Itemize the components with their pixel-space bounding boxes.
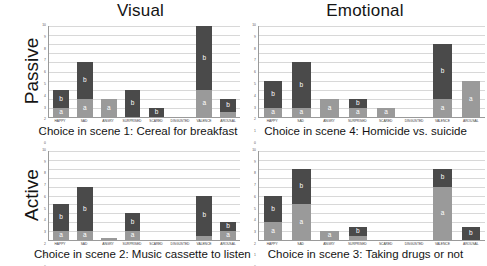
y-tick-label: 8 <box>254 48 256 51</box>
y-tick-label: 6 <box>254 71 256 74</box>
y-tick-label: 4 <box>254 219 256 222</box>
bar-segment-b: b <box>264 81 283 108</box>
y-tick-label: 5 <box>254 208 256 211</box>
bar-segment-b: b <box>264 196 283 223</box>
bar-segment-a <box>196 236 212 240</box>
plot-area: babababba <box>48 151 240 241</box>
bar-segment-a: a <box>349 108 368 117</box>
stacked-bar: ba <box>53 204 69 240</box>
bar-segment-a: a <box>320 99 339 117</box>
bar-slot: ba <box>49 151 73 240</box>
stacked-bar: ba <box>433 44 452 117</box>
stacked-bar: a <box>320 99 339 117</box>
stacked-bar: ba <box>264 196 283 241</box>
bar-segment-a <box>101 238 117 240</box>
y-tick-label: 2 <box>44 119 46 122</box>
bar-slot <box>168 151 192 240</box>
y-tick-label: 9 <box>254 161 256 164</box>
bar-slot: a <box>372 26 400 117</box>
y-tick-label: 0 <box>254 142 256 145</box>
bar-segment-a: a <box>196 90 212 117</box>
stacked-bar: ba <box>77 62 93 117</box>
plot-area: babaabbbab <box>48 26 240 118</box>
bar-slot: a <box>97 26 121 117</box>
bar-slot: ba <box>429 26 457 117</box>
bar-segment-b: b <box>220 222 236 231</box>
y-tick-label: 5 <box>254 83 256 86</box>
stacked-bar: a <box>320 231 339 240</box>
y-tick-label: 8 <box>44 48 46 51</box>
plot-area: babaabbab <box>258 151 485 241</box>
stacked-bar: ba <box>196 26 212 117</box>
stacked-bar: b <box>125 90 141 117</box>
stacked-bar: a <box>462 81 481 117</box>
bar-segment-b: b <box>462 227 481 240</box>
plot-area: babaabaabaa <box>258 26 485 118</box>
bar-segment-b: b <box>125 213 141 231</box>
bar-slot: b <box>145 26 169 117</box>
stacked-bar: ba <box>125 213 141 240</box>
y-tick-label: 4 <box>44 95 46 98</box>
stacked-bar: b <box>149 108 165 117</box>
y-tick-label: 7 <box>254 184 256 187</box>
bars-container: babaabbab <box>259 151 485 240</box>
bar-slot: ba <box>121 151 145 240</box>
y-tick-label: 7 <box>254 60 256 63</box>
y-tick-label: 5 <box>44 208 46 211</box>
bar-segment-a: a <box>433 99 452 117</box>
bar-segment-a: a <box>101 99 117 117</box>
panel-caption: Choice in scene 3: Taking drugs or not <box>244 248 487 260</box>
bar-slot <box>168 26 192 117</box>
bar-segment-a: a <box>264 222 283 240</box>
stacked-bar: ba <box>77 187 93 240</box>
bar-slot: ba <box>287 151 315 240</box>
bar-segment-b: b <box>77 187 93 232</box>
bar-segment-a: a <box>320 231 339 240</box>
chart-panel-top-right: babaabaabaa 012345678910 HAPPYSADANGRYSU… <box>244 24 487 142</box>
figure-stacked-bar-grid: Visual Emotional Passive Active babaabbb… <box>0 0 487 266</box>
bar-segment-a: a <box>125 231 141 240</box>
bar-slot: ba <box>216 151 240 240</box>
panel-caption: Choice in scene 4: Homicide vs. suicide <box>244 125 487 137</box>
y-tick-label: 0 <box>44 142 46 145</box>
y-tick-label: 10 <box>42 149 46 152</box>
y-tick-label: 10 <box>252 149 256 152</box>
bar-slot: b <box>121 26 145 117</box>
bar-slot: ba <box>259 151 287 240</box>
bar-slot <box>400 26 428 117</box>
bar-slot <box>372 151 400 240</box>
column-title-emotional: Emotional <box>243 1 487 21</box>
bar-segment-a: a <box>377 108 396 117</box>
bars-container: babaabaabaa <box>259 26 485 117</box>
y-tick-label: 3 <box>44 231 46 234</box>
bar-slot: b <box>457 151 485 240</box>
bar-segment-b: b <box>196 196 212 236</box>
y-tick-label: 4 <box>254 95 256 98</box>
bar-slot: b <box>216 26 240 117</box>
bar-segment-b: b <box>196 26 212 90</box>
bar-segment-b: b <box>292 169 311 205</box>
bar-segment-b: b <box>292 62 311 108</box>
bar-segment-a: a <box>292 108 311 117</box>
y-tick-label: 9 <box>254 36 256 39</box>
bar-segment-b: b <box>77 62 93 98</box>
panel-caption: Choice in scene 2: Music cassette to lis… <box>34 248 242 260</box>
bars-container: babababba <box>49 151 240 240</box>
bar-slot: ba <box>259 26 287 117</box>
y-tick-label: 3 <box>254 231 256 234</box>
stacked-bar: b <box>349 227 368 240</box>
bar-slot: ba <box>429 151 457 240</box>
bar-segment-b: b <box>53 204 69 231</box>
bar-segment-b: b <box>53 90 69 108</box>
y-tick-label: 6 <box>44 71 46 74</box>
bars-container: babaabbbab <box>49 26 240 117</box>
bar-slot <box>97 151 121 240</box>
bar-slot: ba <box>73 151 97 240</box>
bar-slot: b <box>344 151 372 240</box>
y-tick-label: 5 <box>44 83 46 86</box>
stacked-bar: ba <box>53 90 69 117</box>
bar-slot: a <box>316 151 344 240</box>
bar-segment-b: b <box>220 99 236 113</box>
bar-segment-b: b <box>433 44 452 99</box>
y-tick-label: 9 <box>44 161 46 164</box>
